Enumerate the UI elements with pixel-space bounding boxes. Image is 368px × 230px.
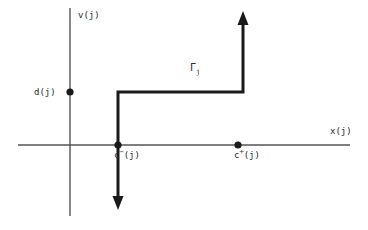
gamma-j-path (118, 18, 243, 202)
c-minus-argument: (j) (124, 150, 140, 160)
c-minus-point-label: c−(j) (114, 150, 140, 160)
gamma-subscript: j (196, 68, 200, 76)
gamma-path-diagram (0, 0, 368, 230)
x-axis-label: x(j) (330, 126, 352, 136)
down-arrowhead-icon (113, 196, 124, 210)
up-arrowhead-icon (238, 11, 249, 25)
d-point-label: d(j) (34, 87, 56, 97)
d-point-marker (66, 88, 73, 95)
c-plus-point-label: c+(j) (234, 150, 260, 160)
c-plus-argument: (j) (244, 150, 260, 160)
y-axis-label: v(j) (78, 10, 100, 20)
gamma-path-label: Γj (190, 62, 200, 73)
